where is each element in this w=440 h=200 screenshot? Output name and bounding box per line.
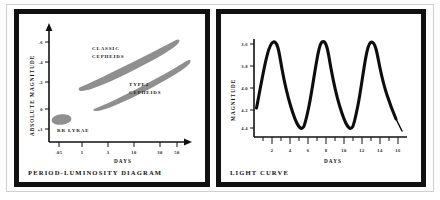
light-curve-tail xyxy=(396,119,402,131)
y-tick-label: 4.2 xyxy=(241,108,248,113)
series-blob-rr-lyrae xyxy=(51,113,72,125)
x-tick-labels: 2 4 6 8 10 12 14 16 xyxy=(271,148,401,153)
x-tick-label: 30 xyxy=(157,150,163,155)
y-axis-title: ABSOLUTE MAGNITUDE xyxy=(29,55,35,136)
x-tick-label: 12 xyxy=(359,148,365,153)
x-axis-title: DAYS xyxy=(324,158,342,164)
x-tick-label: 10 xyxy=(131,150,137,155)
period-luminosity-chart: -6 -4 -2 0 +1 ABSOLUTE MAGNITUDE xyxy=(19,14,205,182)
y-axis-arrowhead xyxy=(46,23,53,31)
x-axis-arrowhead xyxy=(184,139,192,146)
annotation-line: CLASSIC xyxy=(92,46,120,51)
y-tick-label: 0 xyxy=(40,107,43,112)
y-tick-label: 3.8 xyxy=(241,64,248,69)
annotation-rr-lyrae: RR LYRAE xyxy=(57,128,89,133)
panel-caption-light-curve: LIGHT CURVE xyxy=(230,169,289,176)
y-tick-label: 4.0 xyxy=(241,86,248,91)
x-tick-label: 50 xyxy=(174,150,180,155)
y-axis-title: MAGNITUDE xyxy=(230,79,236,121)
y-tick-labels: -6 -4 -2 0 +1 xyxy=(37,40,43,132)
x-tick-label: 3 xyxy=(107,150,110,155)
panel-period-luminosity: -6 -4 -2 0 +1 ABSOLUTE MAGNITUDE xyxy=(14,9,210,187)
panel-container: -6 -4 -2 0 +1 ABSOLUTE MAGNITUDE xyxy=(14,9,426,187)
annotation-line: TYPE2 xyxy=(129,82,149,87)
x-tick-label: 1 xyxy=(81,150,84,155)
x-tick-label: 16 xyxy=(395,148,401,153)
annotation-line: CEPHEIDS xyxy=(92,54,124,59)
x-tick-label: 6 xyxy=(307,148,310,153)
x-tick-label: 10 xyxy=(341,148,347,153)
y-tick-label: 3.6 xyxy=(241,42,248,47)
annotation-line: CEPHEIDS xyxy=(129,90,161,95)
x-tick-label: 14 xyxy=(377,148,383,153)
y-tick-labels: 3.6 3.8 4.0 4.2 4.4 xyxy=(241,42,248,131)
y-tick-label: -2 xyxy=(38,80,43,85)
y-tick-label: -6 xyxy=(38,40,43,45)
x-axis-group xyxy=(49,139,192,146)
x-tick-label: 8 xyxy=(325,148,328,153)
y-tick-label: 4.4 xyxy=(241,126,248,131)
x-ticks xyxy=(263,137,398,144)
x-tick-label: 2 xyxy=(271,148,274,153)
light-curve-chart: 3.6 3.8 4.0 4.2 4.4 MAGNITUDE xyxy=(221,14,421,182)
annotation-classic-cepheids: CLASSIC CEPHEIDS xyxy=(92,46,124,59)
y-tick-label: +1 xyxy=(37,127,43,132)
panel-light-curve: 3.6 3.8 4.0 4.2 4.4 MAGNITUDE xyxy=(216,9,426,187)
y-tick-label: -4 xyxy=(38,60,43,65)
astronomy-figure: -6 -4 -2 0 +1 ABSOLUTE MAGNITUDE xyxy=(0,0,440,200)
x-tick-labels: .05 1 3 10 30 50 xyxy=(56,150,180,155)
x-tick-label: .05 xyxy=(56,150,63,155)
x-tick-label: 4 xyxy=(289,148,292,153)
x-axis-title: DAYS xyxy=(114,158,132,164)
light-curve-path xyxy=(257,41,397,128)
panel-caption-period-luminosity: PERIOD-LUMINOSITY DIAGRAM xyxy=(28,169,162,176)
